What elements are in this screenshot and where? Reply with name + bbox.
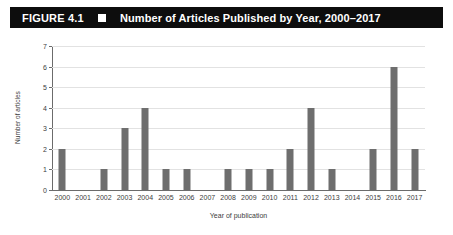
y-tick-mark <box>49 190 52 191</box>
figure-number-label: FIGURE 4.1 <box>22 12 84 24</box>
gridline <box>52 87 425 88</box>
y-tick-label: 1 <box>43 166 47 173</box>
bar <box>287 149 294 190</box>
y-tick-mark <box>49 67 52 68</box>
y-tick-label: 6 <box>43 63 47 70</box>
x-tick-label: 2009 <box>241 194 257 201</box>
x-tick-label: 2016 <box>386 194 402 201</box>
y-tick-mark <box>49 87 52 88</box>
y-tick-label: 4 <box>43 104 47 111</box>
bar <box>266 169 273 190</box>
bar <box>183 169 190 190</box>
y-tick-mark <box>49 149 52 150</box>
x-tick-label: 2013 <box>324 194 340 201</box>
y-tick-mark <box>49 108 52 109</box>
x-axis-line <box>52 190 426 191</box>
black-square-marker-icon <box>98 14 106 22</box>
y-tick-label: 3 <box>43 125 47 132</box>
bar <box>142 108 149 190</box>
bar <box>225 169 232 190</box>
y-axis-title: Number of articles <box>14 68 21 168</box>
y-tick-mark <box>49 169 52 170</box>
bar <box>308 108 315 190</box>
bar <box>100 169 107 190</box>
x-tick-label: 2010 <box>262 194 278 201</box>
bar <box>59 149 66 190</box>
x-tick-label: 2000 <box>55 194 71 201</box>
y-tick-label: 5 <box>43 84 47 91</box>
gridline <box>52 46 425 47</box>
x-tick-label: 2015 <box>365 194 381 201</box>
x-tick-label: 2012 <box>303 194 319 201</box>
y-tick-label: 7 <box>43 43 47 50</box>
x-tick-label: 2004 <box>137 194 153 201</box>
plot-area: 01234567 <box>52 46 425 190</box>
y-tick-mark <box>49 46 52 47</box>
x-tick-label: 2011 <box>283 194 298 201</box>
bar <box>370 149 377 190</box>
gridline <box>52 128 425 129</box>
x-tick-label: 2003 <box>117 194 133 201</box>
bar <box>245 169 252 190</box>
figure-title: Number of Articles Published by Year, 20… <box>120 12 381 24</box>
x-tick-label: 2002 <box>96 194 112 201</box>
figure-header-bar: FIGURE 4.1 Number of Articles Published … <box>10 7 443 28</box>
bar <box>411 149 418 190</box>
gridline <box>52 67 425 68</box>
bar <box>162 169 169 190</box>
x-tick-label: 2008 <box>220 194 236 201</box>
x-tick-label: 2014 <box>345 194 361 201</box>
gridline <box>52 108 425 109</box>
y-tick-label: 2 <box>43 145 47 152</box>
x-tick-label: 2001 <box>75 194 91 201</box>
y-tick-mark <box>49 128 52 129</box>
x-tick-label: 2007 <box>200 194 216 201</box>
x-axis-title: Year of publication <box>52 212 425 219</box>
x-tick-label: 2006 <box>179 194 195 201</box>
y-tick-label: 0 <box>43 187 47 194</box>
x-tick-label: 2017 <box>407 194 423 201</box>
bar <box>328 169 335 190</box>
bar-chart: Number of articles 01234567 Year of publ… <box>0 28 453 235</box>
x-tick-label: 2005 <box>158 194 174 201</box>
bar <box>121 128 128 190</box>
bar <box>390 67 397 190</box>
